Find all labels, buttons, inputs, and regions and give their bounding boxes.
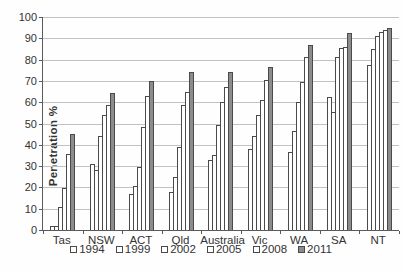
bar-group-nsw (83, 93, 123, 230)
y-tick-label: 30 (7, 161, 37, 172)
category-label-vic: Vic (240, 234, 280, 246)
y-axis-tick (39, 38, 43, 39)
category-label-qld: Qld (161, 234, 201, 246)
bar-group-wa (280, 45, 320, 230)
y-tick-label: 50 (7, 119, 37, 130)
y-tick-label: 100 (7, 12, 37, 23)
bar-group-tas (43, 134, 83, 230)
bar-group-sa (320, 33, 360, 230)
y-tick-label: 40 (7, 140, 37, 151)
category-label-sa: SA (319, 234, 359, 246)
legend-swatch-2008 (253, 246, 260, 253)
y-axis-tick (39, 81, 43, 82)
y-tick-label: 0 (7, 225, 37, 236)
category-label-wa: WA (279, 234, 319, 246)
bar-australia-2011 (228, 72, 233, 230)
y-tick-label: 10 (7, 204, 37, 215)
legend-swatch-1994 (70, 246, 77, 253)
y-tick-label: 90 (7, 33, 37, 44)
bar-group-qld (162, 72, 202, 230)
category-label-nt: NT (358, 234, 398, 246)
y-axis-tick (39, 17, 43, 18)
y-axis-tick (39, 60, 43, 61)
y-axis-tick (39, 102, 43, 103)
bar-nsw-2011 (110, 93, 115, 230)
bar-tas-2011 (70, 134, 75, 230)
y-axis-tick (39, 124, 43, 125)
category-label-act: ACT (121, 234, 161, 246)
category-label-nsw: NSW (82, 234, 122, 246)
y-tick-label: 70 (7, 76, 37, 87)
bar-group-nt (359, 28, 399, 230)
bar-qld-2011 (189, 72, 194, 230)
legend-swatch-2005 (207, 246, 214, 253)
legend-swatch-2002 (161, 246, 168, 253)
penetration-bar-chart: Penetration % 0102030405060708090100 199… (0, 0, 402, 271)
bar-wa-2011 (308, 45, 313, 230)
bar-group-act (122, 81, 162, 230)
category-label-tas: Tas (42, 234, 82, 246)
y-tick-label: 20 (7, 182, 37, 193)
bar-group-vic (241, 67, 281, 230)
legend-swatch-1999 (116, 246, 123, 253)
y-tick-label: 80 (7, 55, 37, 66)
x-axis-tick (399, 231, 400, 234)
legend-swatch-2011 (298, 246, 305, 253)
bar-group-australia (201, 72, 241, 230)
bar-vic-2011 (268, 67, 273, 230)
plot-area: Penetration % 0102030405060708090100 (42, 17, 399, 231)
y-tick-label: 60 (7, 97, 37, 108)
bar-sa-2011 (347, 33, 352, 230)
grid-line (43, 17, 399, 18)
bar-act-2011 (149, 81, 154, 230)
category-label-australia: Australia (200, 234, 240, 246)
bar-nt-2011 (387, 28, 392, 230)
